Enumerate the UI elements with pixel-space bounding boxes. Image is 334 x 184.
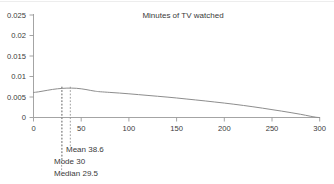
y-tick-label-5: 0.025 <box>7 11 26 20</box>
x-axis-ticks: 0 50 100 150 200 250 300 <box>31 118 326 134</box>
mode-annotation-label: Mode 30 <box>54 157 86 166</box>
mean-annotation-label: Mean 38.6 <box>66 145 104 154</box>
x-tick-label-6: 300 <box>313 124 326 133</box>
y-tick-label-3: 0.015 <box>7 52 26 61</box>
chart-title: Minutes of TV watched <box>142 11 223 20</box>
x-tick-label-1: 50 <box>77 124 85 133</box>
x-tick-label-3: 150 <box>170 124 183 133</box>
x-tick-label-2: 100 <box>123 124 136 133</box>
x-tick-label-4: 200 <box>218 124 231 133</box>
density-chart-figure: Minutes of TV watched 0 0.005 0.01 0.015… <box>0 0 334 184</box>
x-tick-label-5: 250 <box>266 124 279 133</box>
density-curve <box>34 88 320 117</box>
y-tick-label-4: 0.02 <box>11 31 26 40</box>
y-axis-ticks: 0 0.005 0.01 0.015 0.02 0.025 <box>7 11 34 123</box>
y-tick-label-2: 0.01 <box>11 72 26 81</box>
x-tick-label-0: 0 <box>31 124 35 133</box>
y-tick-label-0: 0 <box>22 113 26 122</box>
median-annotation-label: Median 29.5 <box>54 169 99 178</box>
y-tick-label-1: 0.005 <box>7 93 26 102</box>
chart-canvas: Minutes of TV watched 0 0.005 0.01 0.015… <box>0 0 334 184</box>
